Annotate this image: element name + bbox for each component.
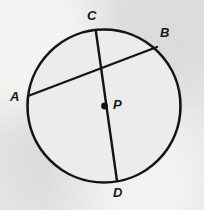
center-point-p-dot bbox=[101, 103, 108, 110]
vertex-label-b: B bbox=[160, 26, 169, 39]
vertex-label-a: A bbox=[10, 90, 19, 103]
vertex-label-d: D bbox=[113, 186, 122, 199]
vertex-label-c: C bbox=[87, 9, 96, 22]
vertex-label-p: P bbox=[113, 98, 122, 111]
geometry-drawing bbox=[0, 0, 204, 210]
circle-geometry-figure: C B A P D bbox=[0, 0, 204, 210]
